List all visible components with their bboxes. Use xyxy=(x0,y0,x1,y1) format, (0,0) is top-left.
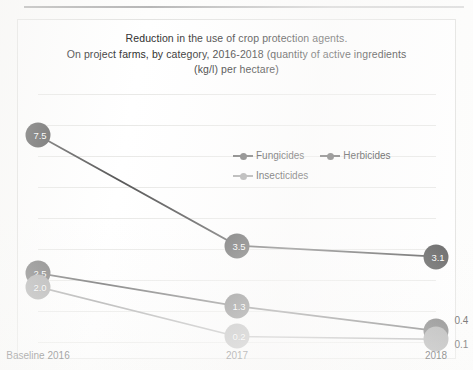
legend-label-insecticides: Insecticides xyxy=(256,170,308,181)
chart-title-line-3: (kg/l) per hectare) xyxy=(18,62,455,78)
data-label-insecticides-2018: 0.1 xyxy=(455,339,469,350)
plot-area: 2.51.30.47.53.53.12.00.20.1 xyxy=(38,94,436,342)
legend-item-insecticides[interactable]: Insecticides xyxy=(233,170,308,181)
data-label: 0.2 xyxy=(232,331,245,342)
legend-row-1: Fungicides Herbicides xyxy=(233,150,433,161)
legend-label-herbicides: Herbicides xyxy=(343,150,390,161)
data-point-herbicides-baseline-2016[interactable]: 7.5 xyxy=(26,123,51,148)
legend-row-2: Insecticides xyxy=(233,170,433,181)
legend-marker-fungicides-icon xyxy=(233,151,253,160)
data-label: 3.1 xyxy=(431,251,444,262)
x-axis-tick-baseline-2016: Baseline 2016 xyxy=(6,350,69,361)
legend-label-fungicides: Fungicides xyxy=(256,150,304,161)
chart-container: Reduction in the use of crop protection … xyxy=(17,19,456,359)
legend-item-herbicides[interactable]: Herbicides xyxy=(320,150,390,161)
data-point-fungicides-2017[interactable]: 1.3 xyxy=(225,294,250,319)
page-top-rule xyxy=(24,6,464,8)
legend-item-fungicides[interactable]: Fungicides xyxy=(233,150,304,161)
chart-legend: Fungicides Herbicides Insecticides xyxy=(233,150,433,190)
data-label: 3.5 xyxy=(232,240,245,251)
chart-title: Reduction in the use of crop protection … xyxy=(18,31,455,78)
x-axis-tick-2017: 2017 xyxy=(226,350,248,361)
chart-title-line-2: On project farms, by category, 2016-2018… xyxy=(18,47,455,63)
x-axis: Baseline 201620172018 xyxy=(38,350,436,366)
data-label: 2.0 xyxy=(33,281,46,292)
legend-marker-insecticides-icon xyxy=(233,171,253,180)
legend-marker-herbicides-icon xyxy=(320,151,340,160)
data-point-insecticides-2017[interactable]: 0.2 xyxy=(225,324,250,349)
chart-title-line-1: Reduction in the use of crop protection … xyxy=(18,31,455,47)
data-label: 1.3 xyxy=(232,301,245,312)
data-label: 7.5 xyxy=(33,130,46,141)
x-axis-tick-2018: 2018 xyxy=(425,350,447,361)
data-point-insecticides-baseline-2016[interactable]: 2.0 xyxy=(26,274,51,299)
data-point-insecticides-2018[interactable] xyxy=(424,327,449,352)
data-point-herbicides-2017[interactable]: 3.5 xyxy=(225,233,250,258)
data-point-herbicides-2018[interactable]: 3.1 xyxy=(424,244,449,269)
data-label-fungicides-2018: 0.4 xyxy=(455,314,469,325)
